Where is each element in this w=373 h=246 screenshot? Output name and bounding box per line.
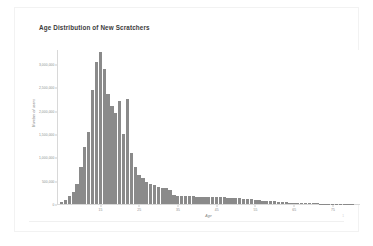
bar [60,202,63,204]
bar [300,203,303,204]
bar [308,203,311,204]
bar [137,175,140,204]
bar [226,198,229,204]
bar [106,94,109,204]
plot-area: 0500,0001,000,0001,500,0002,000,0002,500… [57,50,360,205]
bar [157,187,160,204]
bar [99,52,102,204]
x-axis-tick-label: 35 [176,208,180,212]
y-axis-label: Number of users [32,99,36,127]
figure-canvas: Age Distribution of New Scratchers 0500,… [0,0,373,246]
bar [176,196,179,204]
bar [134,167,137,204]
bar [199,197,202,204]
bar [257,200,260,204]
bar [192,196,195,204]
bar [118,101,121,204]
bar [246,199,249,204]
bar [95,62,98,204]
y-axis-tick-label: 3,000,000 [39,63,57,67]
bar [195,197,198,204]
y-axis-tick-label: 2,000,000 [39,110,57,114]
x-axis-tick-mark [332,205,333,207]
bar [312,203,315,204]
bar [215,197,218,204]
bar [250,199,253,204]
footer-divider [29,221,344,222]
bar [242,199,245,204]
bar [219,197,222,204]
y-axis-tick-mark [55,181,57,182]
x-axis-tick-mark [216,205,217,207]
bar [230,198,233,204]
bar [75,184,78,204]
bar [145,182,148,204]
bar [126,99,129,204]
bar [184,196,187,204]
footer-page-number: 1 [342,214,344,218]
bar [79,167,82,204]
bar [188,196,191,204]
x-axis-tick-label: 15 [99,208,103,212]
y-axis-tick-mark [55,135,57,136]
y-axis-tick-mark [55,205,57,206]
bar [164,188,167,204]
bar [203,197,206,204]
bar [110,106,113,204]
x-axis-tick-mark [294,205,295,207]
bar [269,201,272,204]
bar [122,134,125,204]
bar [114,113,117,204]
bar [87,132,90,204]
bar [261,201,264,205]
bar [211,197,214,204]
x-axis-tick-label: 25 [137,208,141,212]
bar [288,203,291,204]
y-axis-tick-mark [55,111,57,112]
bar [172,195,175,204]
x-axis-tick-mark [139,205,140,207]
bar [141,178,144,204]
bar [304,203,307,204]
bar [161,188,164,204]
x-axis-tick-mark [178,205,179,207]
bar [285,202,288,204]
bar [149,184,152,204]
x-axis-tick-label: 75 [331,208,335,212]
bar [68,196,71,204]
bar [254,200,257,204]
x-axis-tick-label: 65 [292,208,296,212]
x-axis-tick-mark [255,205,256,207]
y-axis-tick-mark [55,88,57,89]
bar [207,197,210,204]
bar [296,203,299,204]
bar [265,201,268,204]
x-axis-label: Age [57,214,360,218]
bar [72,192,75,204]
bar [64,200,67,204]
x-axis-tick-label: 55 [253,208,257,212]
bar [273,201,276,204]
y-axis-tick-mark [55,65,57,66]
bar [315,203,318,204]
bar [223,197,226,204]
bar [130,153,133,204]
y-axis-tick-label: 1,000,000 [39,156,57,160]
bar [238,198,241,204]
chart-title: Age Distribution of New Scratchers [39,24,150,31]
x-axis-tick-label: 45 [215,208,219,212]
bar [91,90,94,204]
bar [180,196,183,204]
figure-frame: Age Distribution of New Scratchers 0500,… [14,7,359,232]
bar [292,203,295,204]
bar [83,147,86,204]
y-axis-tick-label: 1,500,000 [39,133,57,137]
bar [277,202,280,204]
y-axis-tick-label: 2,500,000 [39,86,57,90]
bar [103,69,106,204]
x-axis-line [57,204,360,205]
x-axis-tick-mark [100,205,101,207]
bar [168,190,171,204]
y-axis-tick-mark [55,158,57,159]
bar-series [58,50,360,204]
